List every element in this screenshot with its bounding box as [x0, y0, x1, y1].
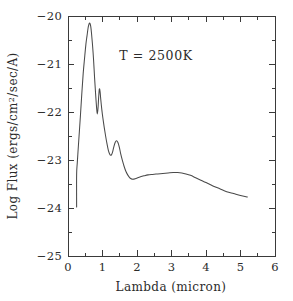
figure-container: 0123456 −25−24−23−22−21−20 T = 2500K Lam…	[0, 0, 293, 301]
x-tick-label: 3	[168, 260, 176, 274]
x-axis-title: Lambda (micron)	[116, 280, 227, 294]
y-tick-label: −21	[37, 57, 62, 71]
y-tick-label: −22	[37, 105, 62, 119]
y-tick-label: −20	[37, 9, 62, 23]
x-tick-label: 4	[202, 260, 210, 274]
x-axis-tick-labels: 0123456	[64, 260, 279, 274]
x-tick-label: 6	[271, 260, 279, 274]
spectrum-chart: 0123456 −25−24−23−22−21−20 T = 2500K Lam…	[0, 0, 293, 301]
y-tick-label: −25	[37, 249, 62, 263]
y-tick-label: −23	[37, 153, 62, 167]
y-axis-tick-labels: −25−24−23−22−21−20	[37, 9, 62, 263]
x-tick-label: 5	[237, 260, 245, 274]
y-tick-label: −24	[37, 201, 62, 215]
y-axis-minor-ticks	[68, 40, 275, 232]
y-axis-title: Log Flux (ergs/cm2/sec/A)	[6, 52, 20, 219]
chart-annotations: T = 2500K	[119, 48, 192, 63]
temperature-annotation: T = 2500K	[119, 48, 192, 63]
x-tick-label: 2	[133, 260, 141, 274]
x-tick-label: 1	[99, 260, 107, 274]
x-tick-label: 0	[64, 260, 72, 274]
